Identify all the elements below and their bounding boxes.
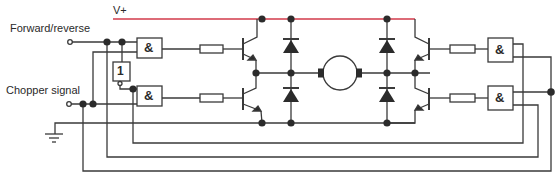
diode-right-upper (379, 19, 395, 73)
junction-dots (79, 15, 554, 126)
circuit-diagram: V+ Forward/reverse Chopper signal & & 1 … (0, 0, 556, 184)
resistor-right-upper (450, 45, 475, 53)
transistor-left-lower (243, 73, 262, 123)
supply-label: V+ (113, 4, 127, 16)
diode-right-lower (379, 73, 395, 123)
diode-left-lower (283, 73, 299, 123)
and-gate-label: & (144, 40, 153, 55)
and-gate-label: & (495, 42, 504, 57)
chopper-input (67, 102, 137, 107)
resistor-left-lower (200, 94, 223, 102)
and-gate-label: & (495, 90, 504, 105)
ground (45, 123, 262, 142)
transistor-right-lower (387, 73, 429, 123)
chopper-signal-label: Chopper signal (6, 84, 80, 96)
and-gate-label: & (144, 88, 153, 103)
forward-reverse-input (68, 40, 137, 45)
transistor-right-upper (415, 19, 429, 73)
resistor-left-upper (200, 45, 223, 53)
forward-reverse-label: Forward/reverse (10, 22, 90, 34)
transistor-left-upper (243, 19, 257, 73)
not-gate-label: 1 (117, 64, 124, 78)
resistor-right-lower (450, 94, 475, 102)
diode-left-upper (283, 19, 299, 73)
